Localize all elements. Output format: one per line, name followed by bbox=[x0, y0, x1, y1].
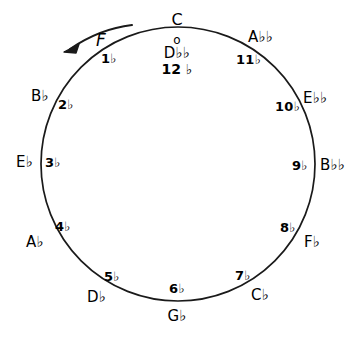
count-label-abb: 11♭ bbox=[236, 53, 261, 66]
count-label-eb: 3♭ bbox=[45, 156, 61, 169]
count-label-ebb: 10♭ bbox=[275, 100, 300, 113]
note-label-ebb: E♭♭ bbox=[303, 91, 327, 106]
count-label-dbb: 12 ♭ bbox=[0, 62, 354, 76]
note-label-dbb: D♭♭ bbox=[0, 46, 354, 61]
count-label-gb: 6♭ bbox=[0, 282, 354, 295]
note-label-abb: A♭♭ bbox=[248, 30, 273, 45]
count-label-bbb: 9♭ bbox=[292, 159, 308, 172]
note-label-c: C bbox=[0, 12, 354, 28]
note-label-cb: C♭ bbox=[251, 288, 269, 303]
note-label-bb: B♭ bbox=[31, 89, 49, 104]
count-label-bb: 2♭ bbox=[58, 98, 74, 111]
note-label-ab: A♭ bbox=[26, 235, 44, 250]
count-label-f: 1♭ bbox=[101, 52, 117, 65]
note-label-fb: F♭ bbox=[304, 235, 320, 250]
circle-of-flats-figure: C o D♭♭ 12 ♭ F 1♭ B♭ 2♭ E♭ 3♭ A♭ 4♭ D♭ 5… bbox=[0, 0, 354, 339]
note-label-gb: G♭ bbox=[0, 309, 354, 324]
count-label-fb: 8♭ bbox=[280, 221, 296, 234]
note-label-f: F bbox=[96, 32, 106, 49]
note-label-eb: E♭ bbox=[16, 155, 33, 170]
note-label-bbb: B♭♭ bbox=[320, 158, 345, 173]
count-label-ab: 4♭ bbox=[55, 220, 71, 233]
count-label-cb: 7♭ bbox=[235, 269, 251, 282]
